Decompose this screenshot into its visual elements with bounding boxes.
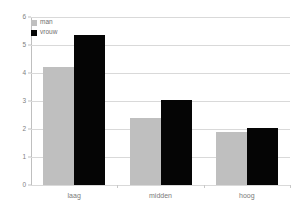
bar-man-hoog [216, 132, 247, 185]
y-axis-tick-mark [28, 73, 31, 74]
y-axis-tick-mark [28, 45, 31, 46]
y-axis-tick-label: 3 [22, 98, 26, 105]
legend-item-man: man [31, 19, 57, 26]
x-axis-label-laag: laag [68, 192, 81, 199]
x-axis-tick-mark [204, 185, 205, 188]
bar-man-midden [130, 118, 161, 185]
bar-vrouw-laag [74, 35, 105, 185]
legend-item-vrouw: vrouw [31, 29, 57, 36]
legend-swatch-icon [31, 20, 37, 26]
x-axis-tick-mark [117, 185, 118, 188]
y-axis-tick-label: 0 [22, 182, 26, 189]
y-axis-tick-mark [28, 17, 31, 18]
x-axis-tick-mark [290, 185, 291, 188]
y-axis-tick-mark [28, 101, 31, 102]
plot-area: 0123456 [31, 17, 290, 185]
y-axis-tick-label: 5 [22, 42, 26, 49]
y-axis-tick-label: 1 [22, 154, 26, 161]
y-axis-tick-mark [28, 185, 31, 186]
y-axis-tick-label: 2 [22, 126, 26, 133]
bar-vrouw-midden [161, 100, 192, 185]
x-axis-label-midden: midden [149, 192, 172, 199]
bar-chart: 0123456 laagmiddenhoog manvrouw [0, 0, 298, 219]
legend-label: man [40, 19, 53, 26]
bar-man-laag [43, 67, 74, 185]
gridline [31, 185, 290, 186]
y-axis-tick-mark [28, 129, 31, 130]
legend-swatch-icon [31, 30, 37, 36]
x-axis-label-hoog: hoog [239, 192, 255, 199]
gridline [31, 17, 290, 18]
y-axis-tick-label: 6 [22, 14, 26, 21]
gridline [31, 45, 290, 46]
bar-vrouw-hoog [247, 128, 278, 185]
legend-label: vrouw [40, 29, 57, 36]
y-axis-tick-label: 4 [22, 70, 26, 77]
y-axis-tick-mark [28, 157, 31, 158]
chart-legend: manvrouw [31, 19, 57, 36]
